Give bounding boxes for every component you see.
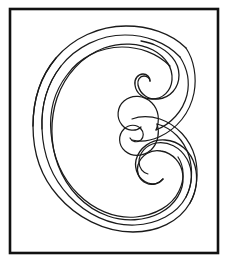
letter-artwork-svg [0,0,228,263]
coloring-page-canvas [0,0,228,263]
